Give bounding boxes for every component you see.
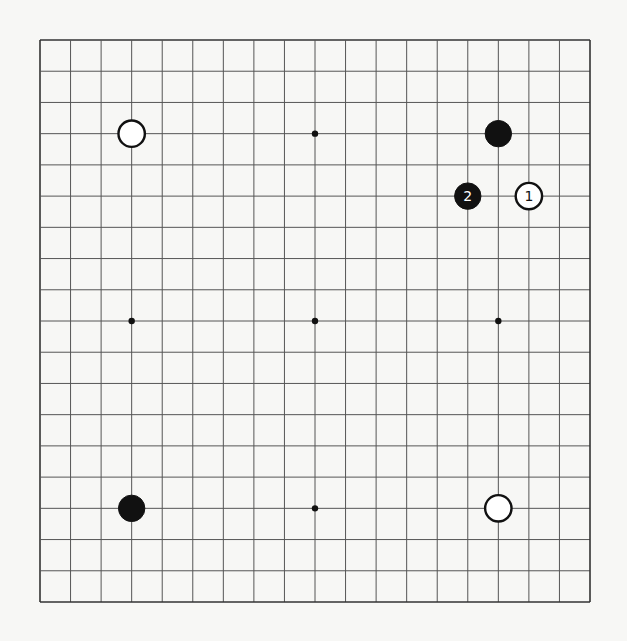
black-stone[interactable] [118, 495, 144, 521]
go-board[interactable]: 21 [0, 0, 627, 641]
black-stone-2[interactable]: 2 [455, 183, 481, 209]
black-stone-icon [485, 120, 511, 146]
star-point-icon [312, 130, 318, 136]
move-number-label: 1 [524, 188, 533, 204]
move-number-label: 2 [463, 188, 472, 204]
white-stone-1[interactable]: 1 [516, 183, 542, 209]
white-stone[interactable] [485, 495, 511, 521]
star-point-icon [312, 505, 318, 511]
star-point-icon [312, 318, 318, 324]
white-stone-icon [485, 495, 511, 521]
black-stone[interactable] [485, 120, 511, 146]
black-stone-icon [118, 495, 144, 521]
star-point-icon [495, 318, 501, 324]
star-point-icon [128, 318, 134, 324]
white-stone-icon [118, 120, 144, 146]
white-stone[interactable] [118, 120, 144, 146]
